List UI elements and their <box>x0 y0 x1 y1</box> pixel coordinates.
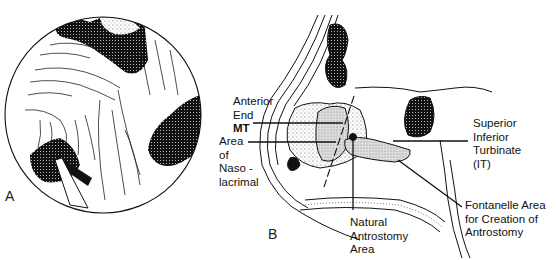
label-line: Anterior <box>233 95 273 109</box>
label-line: of <box>219 149 259 163</box>
label-line: Antrostomy <box>465 226 546 240</box>
label-line: End <box>233 109 273 123</box>
label-line: Area <box>350 243 408 257</box>
medical-figure: A B Anterior End MT Area of Naso - lacri… <box>0 0 557 260</box>
label-line: lacrimal <box>219 176 259 190</box>
panel-letter-a: A <box>5 188 14 204</box>
label-natural-antrostomy-area: Natural Antrostomy Area <box>350 216 408 257</box>
label-line: (IT) <box>473 158 521 172</box>
label-area-of-nasolacrimal: Area of Naso - lacrimal <box>219 135 259 189</box>
label-line: Natural <box>350 216 408 230</box>
label-line: MT <box>233 122 273 136</box>
label-line: Fontanelle Area <box>465 199 546 213</box>
label-line: Antrostomy <box>350 230 408 244</box>
panel-letter-b: B <box>268 226 277 242</box>
leader-fontanelle <box>398 160 462 207</box>
panel-a-endoscopic-view <box>5 16 205 213</box>
label-line: Area <box>219 135 259 149</box>
label-superior-inferior-turbinate: Superior Inferior Turbinate (IT) <box>473 117 521 171</box>
label-anterior-end-mt: Anterior End MT <box>233 95 273 136</box>
label-line: Turbinate <box>473 144 521 158</box>
label-line: for Creation of <box>465 213 546 227</box>
label-line: Inferior <box>473 131 521 145</box>
label-line: Superior <box>473 117 521 131</box>
label-fontanelle-area: Fontanelle Area for Creation of Antrosto… <box>465 199 546 240</box>
label-line: Naso - <box>219 162 259 176</box>
